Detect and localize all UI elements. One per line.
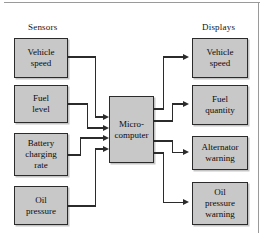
arrowhead-input-battery xyxy=(103,135,109,141)
arrowhead-output-alternator xyxy=(183,149,189,155)
wire-out-fuel-quantity-seg2 xyxy=(172,103,174,122)
wire-out-vehicle-speed-seg2 xyxy=(163,56,165,110)
sensor-label-fuel-level: Fuellevel xyxy=(30,93,52,115)
display-block-fuel-quantity: Fuelquantity xyxy=(192,85,248,125)
sensor-block-battery-charging-rate: Batterychargingrate xyxy=(14,133,68,176)
arrowhead-input-oil-pressure xyxy=(103,146,109,152)
sensors-column-heading: Sensors xyxy=(28,22,57,32)
microcomputer-block: Micro-computer xyxy=(109,96,154,163)
sensor-block-vehicle-speed: Vehiclespeed xyxy=(14,38,68,78)
wire-out-fuel-quantity-seg1 xyxy=(154,120,173,122)
arrowhead-input-vehicle-speed xyxy=(103,114,109,120)
microcomputer-label: Micro-computer xyxy=(113,119,151,141)
wire-out-vehicle-speed-seg3 xyxy=(163,56,184,58)
arrowhead-output-fuel-quantity xyxy=(183,101,189,107)
sensor-block-fuel-level: Fuellevel xyxy=(14,85,68,123)
display-label-vehicle-speed: Vehiclespeed xyxy=(205,47,236,69)
frame-right-rule xyxy=(258,2,259,233)
wire-out-fuel-quantity-seg3 xyxy=(172,103,184,105)
display-label-oil-pressure-warning: Oilpressurewarning xyxy=(203,187,237,220)
displays-column-heading: Displays xyxy=(202,22,235,32)
display-label-fuel-quantity: Fuelquantity xyxy=(203,94,237,116)
wire-battery-sensor-seg2 xyxy=(80,137,82,156)
sensor-label-oil-pressure: Oilpressure xyxy=(24,195,58,217)
wire-out-oil-warning-seg3 xyxy=(163,202,184,204)
sensor-label-battery-charging-rate: Batterychargingrate xyxy=(23,138,58,171)
arrowhead-input-fuel-level xyxy=(103,125,109,131)
display-block-oil-pressure-warning: Oilpressurewarning xyxy=(192,182,248,225)
wire-fuel-level-sensor-seg1 xyxy=(68,103,88,105)
wire-fuel-level-sensor-seg2 xyxy=(87,103,89,128)
sensor-label-vehicle-speed: Vehiclespeed xyxy=(26,47,57,69)
wire-oil-pressure-sensor-seg2 xyxy=(95,148,97,207)
wire-vehicle-speed-sensor-seg1 xyxy=(68,56,96,58)
wire-out-oil-warning-seg2 xyxy=(163,152,165,203)
display-block-alternator-warning: Alternatorwarning xyxy=(192,136,248,170)
wire-vehicle-speed-sensor-seg2 xyxy=(95,56,97,117)
frame-top-rule xyxy=(4,2,260,3)
wire-oil-pressure-sensor-seg1 xyxy=(68,205,96,207)
wire-battery-sensor-seg3 xyxy=(80,137,104,139)
wire-fuel-level-sensor-seg3 xyxy=(87,127,104,129)
wire-out-alternator-seg1 xyxy=(154,140,173,142)
wire-out-alternator-seg3 xyxy=(172,152,184,154)
display-label-alternator-warning: Alternatorwarning xyxy=(200,142,241,164)
arrowhead-output-vehicle-speed xyxy=(183,54,189,60)
display-block-vehicle-speed: Vehiclespeed xyxy=(192,38,248,78)
sensor-block-oil-pressure: Oilpressure xyxy=(14,186,68,225)
arrowhead-output-oil-warning xyxy=(183,199,189,205)
block-diagram: Sensors Displays Vehiclespeed Fuellevel … xyxy=(0,0,264,235)
